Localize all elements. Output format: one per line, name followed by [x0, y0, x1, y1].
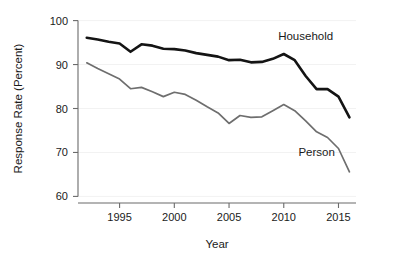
series-label-household: Household	[278, 30, 333, 42]
response-rate-line-chart: 60708090100 19952000200520102015 Househo…	[0, 0, 400, 277]
chart-canvas: 60708090100 19952000200520102015 Househo…	[0, 0, 400, 277]
y-tick-label: 60	[56, 190, 68, 202]
x-tick-label: 2010	[272, 211, 296, 223]
y-tick-label: 100	[50, 15, 68, 27]
x-tick-label: 2005	[217, 211, 241, 223]
x-axis: 19952000200520102015	[78, 203, 356, 223]
grid-lines	[78, 21, 356, 197]
y-tick-label: 80	[56, 103, 68, 115]
series-label-person: Person	[298, 146, 334, 158]
x-axis-ticks: 19952000200520102015	[107, 203, 350, 223]
series-line-household	[87, 38, 350, 118]
x-axis-title: Year	[205, 238, 228, 250]
x-tick-label: 1995	[107, 211, 131, 223]
y-tick-label: 90	[56, 59, 68, 71]
y-tick-label: 70	[56, 146, 68, 158]
y-axis: 60708090100	[50, 15, 78, 203]
y-axis-ticks: 60708090100	[50, 15, 78, 203]
x-tick-label: 2000	[162, 211, 186, 223]
series-annotations: HouseholdPerson	[278, 30, 335, 158]
x-tick-label: 2015	[326, 211, 350, 223]
y-axis-title: Response Rate (Percent)	[12, 43, 24, 173]
